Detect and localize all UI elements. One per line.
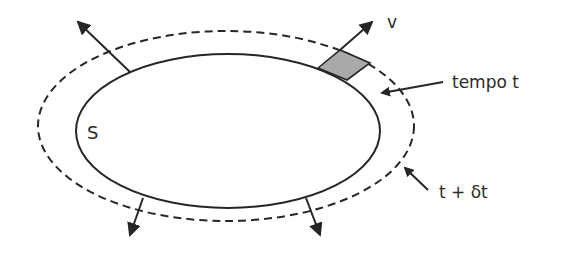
surface-motion-diagram: S v tempo t t + δt <box>0 0 563 254</box>
shaded-surface-element <box>318 50 370 80</box>
velocity-label-v: v <box>387 12 397 32</box>
surface-label-s: S <box>87 122 98 143</box>
pointer-arrow-t-plus-dt-icon <box>405 168 428 190</box>
pointer-arrow-tempo-t-icon <box>382 82 443 93</box>
surface-s-solid-ellipse <box>76 54 380 208</box>
time-t-label: tempo t <box>452 72 519 92</box>
normal-arrow-bottom-left-icon <box>130 198 143 235</box>
velocity-arrow-v-icon <box>340 22 372 50</box>
normal-arrow-bottom-right-icon <box>306 198 320 235</box>
time-t-plus-dt-label: t + δt <box>439 182 488 202</box>
